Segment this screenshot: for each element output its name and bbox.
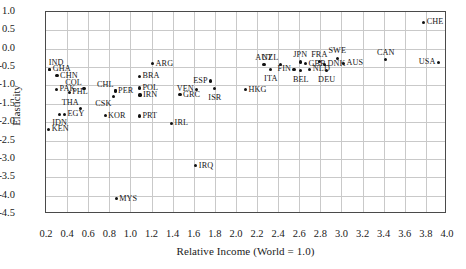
data-point-label-prt: PRT (142, 112, 157, 120)
data-point-label-aus: AUS (347, 59, 364, 67)
data-point-bel[interactable] (299, 69, 302, 72)
y-tick-label: 1.0 (0, 6, 15, 16)
data-point-label-nzl: NZL (262, 54, 278, 62)
data-point-ken[interactable] (47, 128, 50, 131)
y-tick-label: -1.5 (0, 98, 15, 108)
data-point-label-phl: PHL (72, 88, 88, 96)
data-point-can[interactable] (384, 58, 387, 61)
data-point-csk[interactable] (112, 95, 115, 98)
data-point-irn[interactable] (138, 93, 141, 96)
y-tick-label: -0.5 (0, 61, 15, 71)
data-point-label-usa: USA (419, 58, 436, 66)
data-point-label-ken: KEN (52, 125, 69, 133)
gridline-vertical (363, 12, 364, 212)
data-point-hkg[interactable] (244, 88, 247, 91)
data-point-pak[interactable] (55, 88, 58, 91)
data-point-label-col: COL (65, 79, 82, 87)
data-point-label-bra: BRA (142, 72, 159, 80)
data-point-aut[interactable] (262, 63, 265, 66)
gridline-horizontal (46, 67, 445, 68)
gridline-horizontal (46, 196, 445, 197)
data-point-label-csk: CSK (95, 100, 111, 108)
data-point-gha[interactable] (48, 68, 51, 71)
data-point-gbr[interactable] (304, 62, 307, 65)
data-point-label-isr: ISR (208, 94, 221, 102)
data-point-label-mys: MYS (119, 195, 137, 203)
data-point-idn[interactable] (58, 113, 61, 116)
data-point-swe[interactable] (336, 57, 339, 60)
data-point-label-arg: ARG (156, 60, 174, 68)
gridline-vertical (341, 12, 342, 212)
x-axis-title: Relative Income (World = 1.0) (45, 245, 446, 257)
data-point-grc[interactable] (178, 93, 181, 96)
data-point-phl[interactable] (68, 91, 71, 94)
data-point-dnk[interactable] (323, 63, 326, 66)
data-point-irq[interactable] (194, 164, 197, 167)
scatter-chart-figure: Elasticity Relative Income (World = 1.0)… (0, 0, 466, 269)
gridline-horizontal (46, 141, 445, 142)
gridline-vertical (194, 12, 195, 212)
data-point-mys[interactable] (115, 197, 118, 200)
gridline-vertical (88, 12, 89, 212)
gridline-vertical (320, 12, 321, 212)
x-tick-label: 4.0 (427, 228, 466, 239)
data-point-label-kor: KOR (108, 112, 126, 120)
data-point-label-irl: IRL (175, 119, 189, 127)
gridline-horizontal (46, 30, 445, 31)
gridline-horizontal (46, 122, 445, 123)
data-point-prt[interactable] (138, 114, 141, 117)
data-point-arg[interactable] (151, 62, 154, 65)
gridline-vertical (384, 12, 385, 212)
gridline-vertical (257, 12, 258, 212)
y-tick-label: -1.0 (0, 79, 15, 89)
gridline-vertical (130, 12, 131, 212)
data-point-label-fra: FRA (311, 51, 327, 59)
y-tick-label: -3.5 (0, 171, 15, 181)
data-point-chn[interactable] (55, 74, 58, 77)
data-point-label-can: CAN (377, 49, 395, 57)
data-point-jpn[interactable] (299, 60, 302, 63)
data-point-label-per: PER (118, 87, 133, 95)
data-point-fin[interactable] (292, 68, 295, 71)
data-point-nld[interactable] (308, 68, 311, 71)
data-point-egy[interactable] (63, 113, 66, 116)
data-point-usa[interactable] (437, 61, 440, 64)
data-point-label-ita: ITA (264, 75, 277, 83)
data-point-bra[interactable] (138, 75, 141, 78)
y-tick-label: -2.0 (0, 116, 15, 126)
data-point-isr[interactable] (213, 87, 216, 90)
y-tick-label: 0.0 (0, 43, 15, 53)
data-point-label-esp: ESP (193, 77, 207, 85)
gridline-vertical (426, 12, 427, 212)
y-tick-label: 0.5 (0, 24, 15, 34)
data-point-pol[interactable] (138, 86, 141, 89)
data-point-kor[interactable] (104, 114, 107, 117)
data-point-label-tha: THA (62, 99, 79, 107)
data-point-label-hkg: HKG (248, 86, 266, 94)
data-point-esp[interactable] (209, 79, 212, 82)
data-point-label-irn: IRN (143, 91, 157, 99)
gridline-horizontal (46, 159, 445, 160)
data-point-label-pol: POL (142, 84, 158, 92)
gridline-vertical (236, 12, 237, 212)
y-tick-label: -4.0 (0, 190, 15, 200)
y-tick-label: -4.5 (0, 208, 15, 218)
y-tick-label: -3.0 (0, 153, 15, 163)
data-point-irl[interactable] (170, 122, 173, 125)
data-point-label-che: CHE (427, 18, 444, 26)
gridline-vertical (405, 12, 406, 212)
data-point-che[interactable] (422, 21, 425, 24)
data-point-label-swe: SWE (328, 47, 346, 55)
data-point-label-fin: FIN (277, 65, 291, 73)
plot-area: INDGHACHNPAKCOLPHLTHAEGYIDNKENKORCHLPERC… (45, 11, 446, 213)
gridline-vertical (299, 12, 300, 212)
data-point-label-deu: DEU (318, 76, 335, 84)
data-point-per[interactable] (114, 89, 117, 92)
gridline-vertical (278, 12, 279, 212)
data-point-ita[interactable] (269, 68, 272, 71)
data-point-label-bel: BEL (293, 76, 309, 84)
data-point-label-egy: EGY (67, 110, 84, 118)
gridline-horizontal (46, 177, 445, 178)
y-tick-label: -2.5 (0, 135, 15, 145)
gridline-vertical (173, 12, 174, 212)
